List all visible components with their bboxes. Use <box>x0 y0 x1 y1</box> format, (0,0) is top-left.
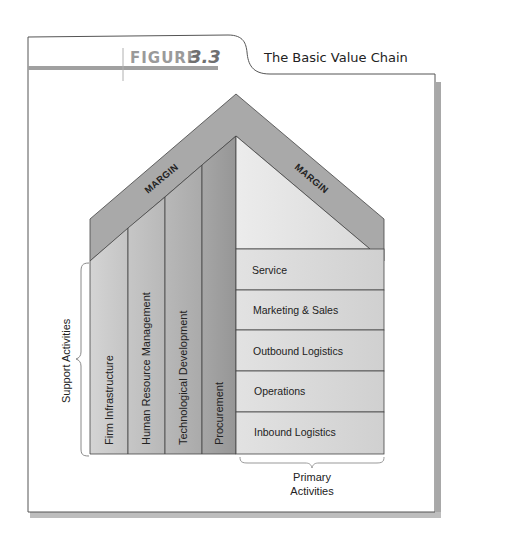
figure-label-number: 3.3 <box>189 46 221 67</box>
primary-activities-label-line1: Primary <box>293 471 331 483</box>
primary-label-service: Service <box>252 264 287 276</box>
primary-label-marketing-sales: Marketing & Sales <box>253 304 338 316</box>
support-label-firm-infrastructure: Firm Infrastructure <box>103 355 115 445</box>
primary-label-inbound-logistics: Inbound Logistics <box>254 426 336 438</box>
primary-activities-label-line2: Activities <box>290 485 334 497</box>
support-label-tech-dev: Technological Development <box>177 310 189 445</box>
figure-title: The Basic Value Chain <box>263 50 408 65</box>
primary-label-outbound-logistics: Outbound Logistics <box>253 345 343 357</box>
primary-label-operations: Operations <box>254 385 305 397</box>
support-label-procurement: Procurement <box>213 382 225 445</box>
figure-label-word: FIGURE <box>130 49 198 67</box>
value-chain-figure: FIGURE 3.3 The Basic Value Chain MARGIN … <box>0 0 506 546</box>
support-label-hrm: Human Resource Management <box>140 292 152 445</box>
support-activities-label: Support Activities <box>60 318 72 403</box>
